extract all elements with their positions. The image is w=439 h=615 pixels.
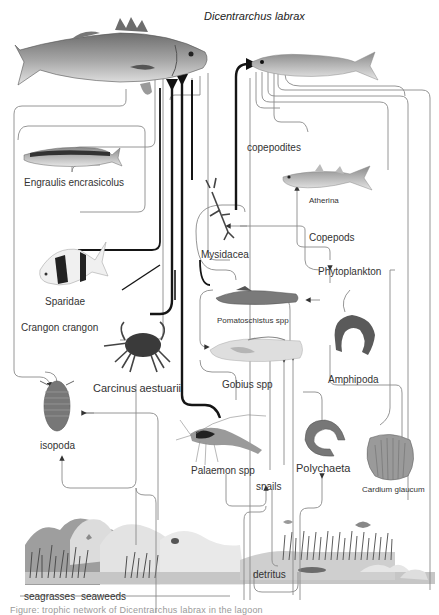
- atherina-illustration: [283, 164, 372, 190]
- label-phytoplankton: Phytoplankton: [318, 267, 381, 277]
- amphipod-illustration: [335, 315, 375, 355]
- label-seagrasses: seagrasses: [24, 592, 75, 602]
- label-detritus: detritus: [253, 570, 286, 580]
- label-mysidacea: Mysidacea: [201, 250, 249, 260]
- label-polychaeta: Polychaeta: [296, 463, 350, 474]
- label-amphipoda: Amphipoda: [328, 375, 379, 385]
- label-copepods: Copepods: [309, 233, 355, 243]
- polychaete-illustration: [305, 420, 345, 456]
- crab-illustration: [104, 322, 170, 372]
- label-sparidae: Sparidae: [45, 297, 85, 307]
- top-right-fish-illustration: [252, 52, 378, 80]
- seabed-illustration: [25, 519, 435, 585]
- figure-caption: Figure: trophic network of Dicentrarchus…: [10, 606, 263, 615]
- gobius-illustration: [210, 337, 303, 362]
- label-cardium: Cardium glaucum: [362, 486, 425, 494]
- label-pomatoschistus: Pomatoschistus spp: [217, 317, 289, 325]
- shrimp-illustration: [176, 415, 266, 465]
- label-atherina: Atherina: [309, 197, 339, 205]
- label-crangon: Crangon crangon: [21, 323, 98, 333]
- label-copepodites: copepodites: [247, 143, 301, 153]
- sea-bass-illustration: [15, 17, 207, 95]
- label-carcinus: Carcinus aestuarii: [93, 383, 181, 394]
- label-gobius: Gobius spp: [222, 380, 273, 390]
- anchovy-illustration: [24, 147, 122, 166]
- isopod-illustration: [40, 381, 74, 431]
- diagram-title: Dicentrarchus labrax: [204, 11, 305, 22]
- label-palaemon: Palaemon spp: [191, 466, 255, 476]
- label-seaweeds: seaweeds: [81, 592, 126, 602]
- sparidae-illustration: [40, 242, 108, 285]
- mysid-illustration: [206, 178, 234, 240]
- label-snails: snails: [256, 482, 282, 492]
- label-isopoda: isopoda: [40, 441, 75, 451]
- label-engraulis: Engraulis encrasicolus: [24, 178, 124, 188]
- thick-trophic-links: [78, 64, 252, 418]
- cockle-illustration: [367, 434, 414, 480]
- pomatoschistus-illustration: [216, 286, 298, 305]
